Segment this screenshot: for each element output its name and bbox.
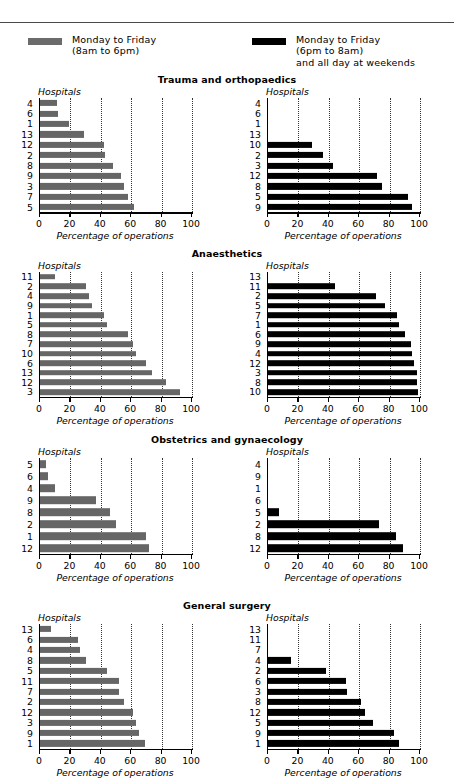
bar-row — [268, 320, 420, 330]
bar — [268, 520, 379, 528]
bar — [40, 532, 146, 540]
x-axis-tick — [358, 555, 359, 559]
category-label: 5 — [238, 506, 264, 518]
bar — [268, 152, 323, 158]
bar — [40, 152, 105, 158]
bar-row — [268, 291, 420, 301]
category-label: 2 — [10, 518, 36, 530]
x-axis-tick — [419, 555, 420, 559]
x-axis-tick-label: 0 — [264, 403, 270, 414]
x-axis-tick-label: 20 — [291, 218, 303, 229]
category-label: 6 — [10, 634, 36, 644]
bar-row — [40, 718, 192, 728]
x-axis-tick — [161, 398, 162, 402]
category-label: 4 — [10, 645, 36, 655]
chart-block: Obstetrics and gynaecologyHospitals56498… — [0, 434, 454, 576]
bar-row — [268, 108, 420, 118]
chart-panels: Hospitals4611312289375020406080100Percen… — [0, 86, 454, 234]
bar-row — [268, 181, 420, 191]
plot-area: 564982112020406080100Percentage of opera… — [10, 458, 81, 576]
x-axis-tick — [191, 555, 192, 559]
gridline — [420, 458, 421, 554]
bar-row — [268, 119, 420, 129]
chart-title: Anaesthetics — [0, 248, 454, 260]
panel-outofhours: Hospitals46113102312859020406080100Perce… — [238, 86, 309, 234]
x-axis-tick — [419, 398, 420, 402]
bar-row — [40, 624, 192, 634]
x-axis-tick — [100, 555, 101, 559]
x-axis-tick — [69, 398, 70, 402]
bar — [268, 293, 376, 299]
chart-title: General surgery — [0, 600, 454, 612]
x-axis-title: Percentage of operations — [56, 415, 173, 426]
bar — [40, 496, 96, 504]
bar-row — [40, 98, 192, 108]
category-axis: 11249158710613123 — [10, 272, 36, 397]
bar — [268, 162, 333, 168]
panel-outofhours: Hospitals491652812020406080100Percentage… — [238, 446, 309, 576]
x-axis-tick — [389, 398, 390, 402]
bar — [40, 370, 152, 376]
x-axis-tick-label: 20 — [63, 218, 75, 229]
bar-row — [268, 738, 420, 748]
bar-row — [40, 282, 192, 292]
bar — [40, 332, 128, 338]
x-axis-tick — [297, 398, 298, 402]
bar-row — [268, 387, 420, 397]
x-axis-tick-label: 40 — [94, 403, 106, 414]
bar-row — [268, 686, 420, 696]
bars-area — [39, 624, 192, 749]
bar-row — [268, 160, 420, 170]
x-axis-title: Percentage of operations — [284, 767, 401, 778]
category-label: 3 — [238, 686, 264, 696]
panel-outofhours: Hospitals131174263812591020406080100Perc… — [238, 612, 309, 771]
x-axis-tick — [328, 750, 329, 754]
bar — [40, 121, 69, 127]
x-axis-tick-label: 0 — [264, 755, 270, 766]
category-label: 7 — [10, 686, 36, 696]
panel-weekday-daytime: Hospitals564982112020406080100Percentage… — [10, 446, 81, 576]
x-axis-tick — [39, 750, 40, 754]
category-label: 8 — [238, 697, 264, 707]
bar — [40, 341, 133, 347]
bar — [40, 508, 110, 516]
category-label: 3 — [10, 181, 36, 191]
x-axis-tick — [161, 750, 162, 754]
x-axis-tick-label: 80 — [155, 755, 167, 766]
category-label: 1 — [238, 119, 264, 129]
category-label: 7 — [238, 645, 264, 655]
bar-row — [40, 108, 192, 118]
bar-row — [40, 482, 192, 494]
bar — [268, 657, 291, 663]
bar — [40, 678, 119, 684]
x-axis-tick-label: 0 — [36, 218, 42, 229]
category-label: 12 — [10, 140, 36, 150]
x-axis-tick — [130, 398, 131, 402]
bar-row — [268, 282, 420, 292]
bar-row — [40, 666, 192, 676]
x-axis-tick-label: 60 — [352, 560, 364, 571]
x-axis-tick-label: 60 — [124, 218, 136, 229]
x-axis-tick — [100, 750, 101, 754]
category-label: 4 — [10, 98, 36, 108]
bar-row — [268, 707, 420, 717]
x-axis-line — [267, 212, 421, 213]
category-label: 8 — [10, 655, 36, 665]
category-label: 3 — [10, 387, 36, 397]
bar-row — [268, 634, 420, 644]
gridline — [420, 624, 421, 749]
bar — [40, 380, 166, 386]
x-axis-tick-label: 100 — [410, 560, 428, 571]
x-axis-title: Percentage of operations — [284, 572, 401, 583]
bar-row — [268, 530, 420, 542]
bar — [40, 688, 119, 694]
category-label: 2 — [238, 518, 264, 530]
legend-swatch-night-icon — [252, 38, 286, 45]
bar — [40, 284, 86, 290]
bars-area — [39, 98, 192, 212]
bar — [268, 303, 385, 309]
chart-block: AnaestheticsHospitals1124915871061312302… — [0, 248, 454, 419]
category-axis: 136485117212391 — [10, 624, 36, 749]
bar-row — [40, 728, 192, 738]
category-label: 2 — [238, 666, 264, 676]
